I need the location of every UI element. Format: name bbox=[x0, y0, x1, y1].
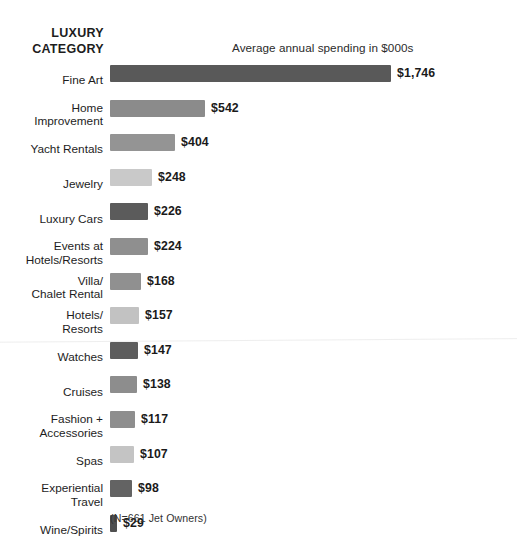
bar-row-label: Fashion + Accessories bbox=[0, 414, 103, 441]
bar-row-label: Villa/ Chalet Rental bbox=[0, 275, 103, 302]
bar-value-label: $147 bbox=[144, 342, 172, 359]
bar-value-label: $168 bbox=[147, 273, 175, 290]
bar bbox=[110, 480, 132, 497]
bar-value-label: $1,746 bbox=[397, 65, 435, 82]
bar bbox=[110, 411, 135, 428]
bar-value-label: $157 bbox=[145, 307, 173, 324]
bar-row: Cruises$138 bbox=[0, 375, 517, 410]
bar-value-label: $226 bbox=[154, 203, 182, 220]
bar-value-label: $117 bbox=[141, 411, 168, 428]
bar bbox=[110, 342, 138, 359]
bar bbox=[110, 203, 148, 220]
bar-row: Spas$107 bbox=[0, 445, 517, 480]
bar-rows: Fine Art$1,746Home Improvement$542Yacht … bbox=[0, 64, 517, 541]
value-axis-heading: Average annual spending in $000s bbox=[232, 41, 413, 54]
bar-value-label: $542 bbox=[211, 100, 239, 117]
bar-row-label: Events at Hotels/Resorts bbox=[0, 241, 103, 268]
bar bbox=[110, 307, 139, 324]
bar-value-label: $404 bbox=[181, 134, 209, 151]
bar-row-label: Luxury Cars bbox=[0, 213, 103, 227]
bar-row-label: Yacht Rentals bbox=[0, 144, 103, 158]
bar-row-label: Watches bbox=[0, 351, 103, 365]
bar-row: Yacht Rentals$404 bbox=[0, 133, 517, 168]
bar-row: Fine Art$1,746 bbox=[0, 64, 517, 99]
bar-value-label: $107 bbox=[140, 446, 168, 463]
bar-row: Villa/ Chalet Rental$168 bbox=[0, 272, 517, 307]
bar bbox=[110, 100, 205, 117]
bar-row: Wine/Spirits$29 bbox=[0, 514, 517, 541]
chart-header: LUXURY CATEGORY Average annual spending … bbox=[0, 26, 517, 60]
bar-row: Events at Hotels/Resorts$224 bbox=[0, 237, 517, 272]
bar-row: Luxury Cars$226 bbox=[0, 202, 517, 237]
bar-row: Hotels/ Resorts$157 bbox=[0, 306, 517, 341]
bar-row: Experiential Travel$98 bbox=[0, 479, 517, 514]
bar-row-label: Cruises bbox=[0, 386, 103, 400]
category-heading-line-1: LUXURY bbox=[51, 26, 104, 40]
bar-row: Fashion + Accessories$117 bbox=[0, 410, 517, 445]
bar-row-label: Experiential Travel bbox=[0, 483, 103, 510]
bar-value-label: $138 bbox=[143, 376, 171, 393]
bar bbox=[110, 65, 391, 82]
bar-value-label: $248 bbox=[158, 169, 186, 186]
bar-row-label: Fine Art bbox=[0, 75, 103, 89]
bar-value-label: $224 bbox=[154, 238, 182, 255]
bar-row: Watches$147 bbox=[0, 341, 517, 376]
bar-row-label: Home Improvement bbox=[0, 102, 103, 129]
category-heading-line-2: CATEGORY bbox=[0, 42, 104, 58]
bar bbox=[110, 376, 137, 393]
category-axis-heading: LUXURY CATEGORY bbox=[0, 26, 104, 57]
bar-row: Home Improvement$542 bbox=[0, 99, 517, 134]
luxury-spending-chart: LUXURY CATEGORY Average annual spending … bbox=[0, 0, 517, 541]
bar bbox=[110, 273, 141, 290]
bar-row-label: Hotels/ Resorts bbox=[0, 310, 103, 337]
sample-size-footnote: (N=661 Jet Owners) bbox=[110, 512, 207, 524]
bar-row: Jewelry$248 bbox=[0, 168, 517, 203]
bar-row-label: Spas bbox=[0, 455, 103, 469]
bar-row-label: Wine/Spirits bbox=[0, 524, 103, 538]
bar bbox=[110, 238, 148, 255]
bar-value-label: $98 bbox=[138, 480, 159, 497]
bar bbox=[110, 134, 175, 151]
bar bbox=[110, 446, 134, 463]
bar bbox=[110, 169, 152, 186]
bar-row-label: Jewelry bbox=[0, 178, 103, 192]
